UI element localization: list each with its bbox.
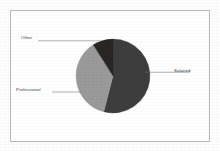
pie-slices — [76, 39, 150, 113]
pie-chart — [0, 0, 220, 151]
pie-label-salaried: Salaried — [174, 69, 190, 73]
figure-root: Other Professional Salaried — [0, 0, 220, 151]
pie-label-other: Other — [21, 36, 32, 40]
pie-label-professional: Professional — [16, 88, 41, 92]
